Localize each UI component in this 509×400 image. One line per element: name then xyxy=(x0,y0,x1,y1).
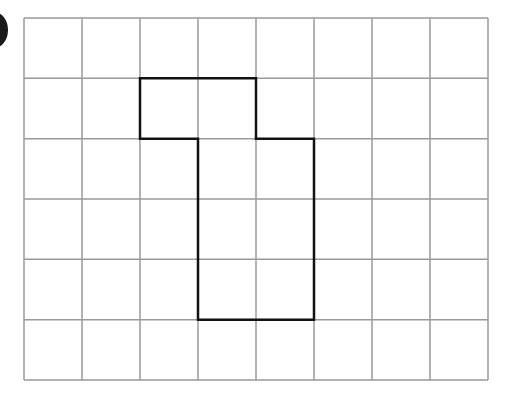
grid-diagram xyxy=(0,0,509,400)
question-marker-circle xyxy=(0,12,8,48)
grid-lines xyxy=(24,18,488,380)
